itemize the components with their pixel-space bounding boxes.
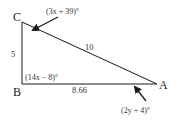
side-bc-label: 5 xyxy=(11,49,15,59)
vertex-b-label: B xyxy=(13,85,21,99)
angle-a-arrow xyxy=(135,87,146,101)
angle-c-label: (3x + 39)° xyxy=(46,7,79,16)
angle-c-arrow xyxy=(33,17,58,30)
triangle-diagram: C B A 5 10 8.66 (3x + 39)° (14x − 8)° (2… xyxy=(0,0,178,123)
vertex-a-label: A xyxy=(159,78,168,92)
side-ab-label: 8.66 xyxy=(72,85,87,95)
angle-b-label: (14x − 8)° xyxy=(25,73,58,82)
side-ac-label: 10 xyxy=(85,42,94,52)
vertex-c-label: C xyxy=(13,10,21,24)
angle-a-label: (2y + 4)° xyxy=(121,106,150,115)
